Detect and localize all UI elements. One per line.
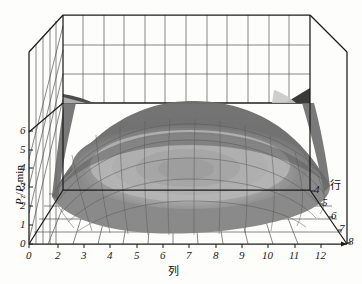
surface-peak-right-light [272,90,296,103]
surface-contour-band-5 [158,158,214,180]
x-tick-12: 12 [315,250,326,261]
y-tick-5: 5 [322,197,328,208]
x-tick-9: 9 [239,250,245,261]
x-tick-2: 2 [55,250,61,261]
z-tick-0: 0 [20,238,26,249]
x-axis-title: 列 [168,266,179,277]
x-tick-11: 11 [289,250,299,261]
plot-canvas [0,0,362,284]
left-wall-grid [29,21,63,244]
z-tick-5: 5 [20,144,26,155]
y-tick-8: 8 [348,236,354,247]
x-tick-3: 3 [81,250,87,261]
back-wall-grid [63,15,310,103]
x-tick-5: 5 [134,250,140,261]
figure-3d-surface-plot: Pz/Pzmin 0 1 2 3 4 5 6 0 2 3 4 5 6 7 8 9… [0,0,362,284]
x-tick-8: 8 [213,250,219,261]
y-tick-7: 7 [339,223,345,234]
z-tick-1: 1 [20,219,26,230]
surface-mesh [52,88,330,235]
z-tick-3: 3 [20,181,26,192]
y-tick-6: 6 [331,210,337,221]
y-axis-title: 行 [330,180,341,191]
z-tick-2: 2 [20,200,26,211]
leftwall-z6-line [29,103,63,132]
z-tick-6: 6 [20,125,26,136]
x-tick-7: 7 [186,250,192,261]
z-axis-title-slash: / [13,192,25,195]
z-tick-4: 4 [20,162,26,173]
z-axis-title-sub1: z [18,195,27,198]
x-tick-0: 0 [26,250,32,261]
x-tick-4: 4 [107,250,113,261]
x-tick-10: 10 [262,250,273,261]
x-tick-6: 6 [160,250,166,261]
y-tick-4: 4 [314,184,320,195]
